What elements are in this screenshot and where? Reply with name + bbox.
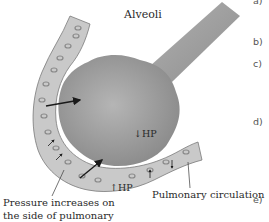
option-marker-c: c)	[253, 58, 262, 69]
alveoli-title: Alveoli	[124, 8, 162, 21]
pressure-caption-line1: Pressure increases on	[3, 197, 115, 208]
option-marker-d: d)	[253, 116, 263, 127]
pressure-caption-line2: the side of pulmonary	[3, 210, 114, 221]
airway-duct	[150, 2, 240, 82]
pulmonary-circulation-label: Pulmonary circulation	[152, 189, 264, 200]
hp-decrease-label: ↓HP	[134, 128, 157, 139]
option-marker-b: b)	[253, 36, 263, 47]
option-marker-e: e)	[253, 194, 263, 205]
option-marker-a: a)	[253, 0, 263, 6]
alveolus-sac	[58, 55, 179, 166]
hp-increase-label: ↑HP	[110, 182, 133, 193]
